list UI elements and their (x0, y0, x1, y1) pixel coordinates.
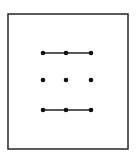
grid-dot (41, 78, 46, 83)
grid-dot (64, 78, 69, 83)
dot-grid-figure (0, 0, 138, 157)
grid-dot (89, 51, 94, 56)
grid-dot (64, 108, 69, 113)
grid-dot (89, 78, 94, 83)
grid-dots (41, 51, 94, 113)
grid-dot (64, 51, 69, 56)
grid-dot (41, 108, 46, 113)
grid-dot (41, 51, 46, 56)
frame-border (8, 14, 128, 149)
grid-dot (89, 108, 94, 113)
diagram-canvas (0, 0, 138, 157)
